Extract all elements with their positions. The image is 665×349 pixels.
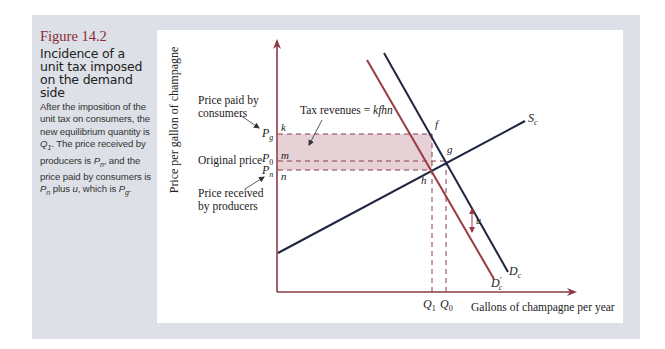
demand-original-label: Dc	[508, 264, 522, 280]
x-axis-label: Gallons of champagne per year	[471, 301, 615, 314]
supply-label: Sc	[528, 111, 538, 127]
annotation-price-paid-line2: consumers	[198, 107, 248, 119]
annotation-price-received-line1: Price received	[198, 187, 264, 199]
annotation-price-received-line2: by producers	[198, 200, 258, 213]
price-paid-pointer	[240, 115, 259, 128]
y-axis-label: Price per gallon of champagne	[167, 47, 181, 194]
point-h: h	[421, 174, 427, 186]
demand-shifted-label: D′c	[490, 275, 503, 292]
annotation-original-price: Original price	[198, 154, 262, 167]
tick-q0: Q0	[440, 297, 453, 313]
tax-revenue-area	[278, 134, 432, 170]
point-k: k	[281, 121, 287, 133]
annotation-price-paid-line1: Price paid by	[198, 94, 259, 107]
point-f: f	[435, 118, 440, 130]
u-label: u	[476, 215, 481, 226]
tax-revenue-label: Tax revenues = kfhn	[300, 104, 393, 117]
tick-pg: Pg	[261, 126, 273, 142]
chart-svg: u Price per gallon of champagne Gallons …	[0, 0, 665, 349]
point-n: n	[281, 170, 287, 182]
point-m: m	[281, 149, 289, 161]
point-g: g	[447, 143, 453, 155]
tick-q1: Q1	[423, 297, 436, 313]
